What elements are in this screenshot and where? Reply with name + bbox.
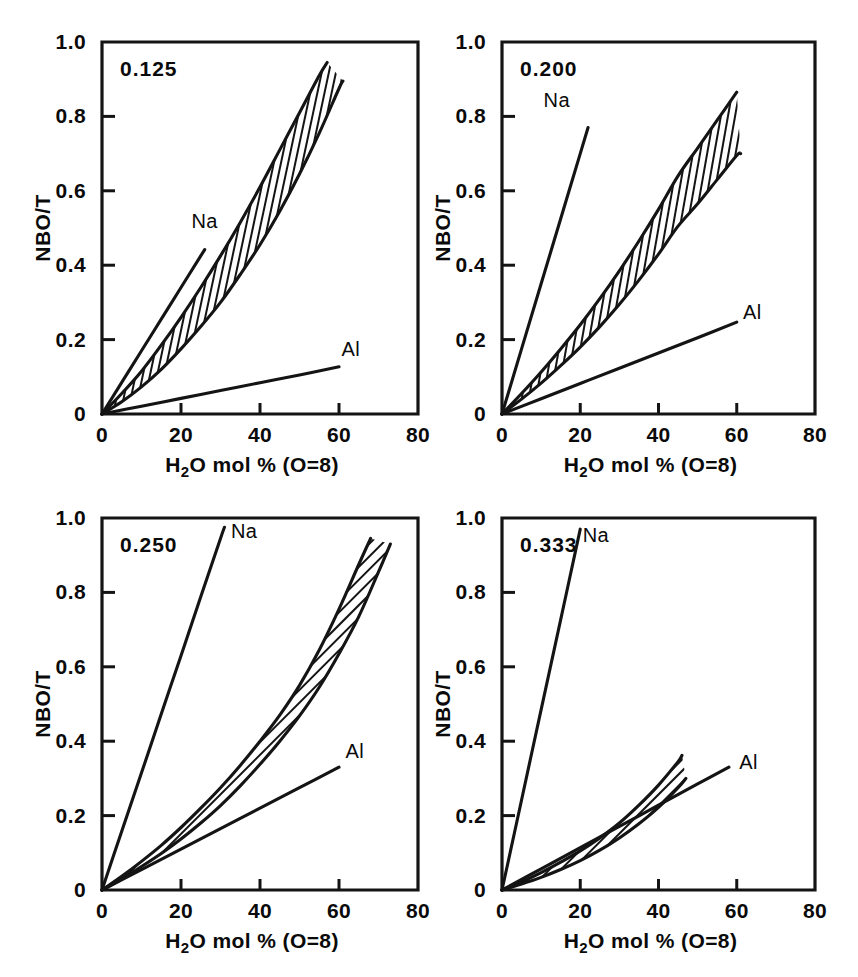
- x-axis-title-h: H: [564, 929, 580, 952]
- x-tick-label-80: 80: [803, 423, 827, 446]
- series-curve-na: [502, 529, 580, 890]
- x-axis-title-h: H: [165, 929, 181, 952]
- chart-panel-0.333: 02040608000.20.40.60.81.0H2O mol % (O=8)…: [430, 504, 831, 960]
- y-tick-label-0: 0: [474, 878, 486, 901]
- x-axis-title-rest: O mol % (O=8): [190, 453, 339, 476]
- series-curve-al: [502, 767, 729, 890]
- y-tick-label-0.6: 0.6: [456, 655, 486, 678]
- hatch-line: [0, 0, 10, 744]
- x-tick-label-80: 80: [406, 423, 430, 446]
- x-tick-label-20: 20: [568, 423, 592, 446]
- band-upper-curve: [102, 538, 371, 890]
- panel-tag-0.125: 0.125: [120, 57, 178, 80]
- x-tick-label-60: 60: [725, 423, 749, 446]
- y-tick-label-1.0: 1.0: [456, 506, 486, 529]
- axis-ticks: [102, 592, 339, 890]
- hatch-line: [0, 0, 24, 747]
- x-axis-title-text: H2O mol % (O=8): [564, 929, 738, 956]
- chart-panel-0.200: 02040608000.20.40.60.81.0H2O mol % (O=8)…: [430, 28, 831, 484]
- y-axis-title-text: NBO/T: [431, 194, 454, 261]
- hatch-line: [591, 637, 858, 977]
- band-fill: [502, 755, 686, 890]
- x-axis-title-rest: O mol % (O=8): [588, 929, 737, 952]
- x-axis-title-h: H: [564, 453, 580, 476]
- panel-tag-0.200: 0.200: [520, 57, 578, 80]
- hatch-line: [422, 467, 858, 977]
- x-tick-label-40: 40: [646, 899, 670, 922]
- x-tick-label-20: 20: [568, 899, 592, 922]
- hatch-line: [836, 0, 858, 876]
- y-tick-label-0.4: 0.4: [56, 729, 86, 752]
- y-tick-label-0.6: 0.6: [56, 655, 86, 678]
- x-tick-label-40: 40: [646, 423, 670, 446]
- x-tick-label-80: 80: [406, 899, 430, 922]
- y-tick-label-0.2: 0.2: [456, 804, 486, 827]
- x-tick-label-80: 80: [803, 899, 827, 922]
- y-tick-label-0.8: 0.8: [56, 104, 86, 127]
- x-axis-title-sub2: 2: [579, 463, 588, 480]
- x-axis-title-h: H: [165, 453, 181, 476]
- series-label-na: Na: [583, 524, 610, 546]
- x-axis-title: H2O mol % (O=8): [165, 929, 339, 956]
- y-tick-label-0.4: 0.4: [56, 253, 86, 276]
- x-axis-title-text: H2O mol % (O=8): [564, 453, 738, 480]
- hatch-line: [829, 0, 858, 875]
- x-tick-label-60: 60: [327, 423, 351, 446]
- band-fill: [502, 92, 741, 414]
- series-label-al: Al: [346, 740, 365, 762]
- chart-svg-0.125: 02040608000.20.40.60.81.0H2O mol % (O=8)…: [30, 28, 434, 484]
- x-tick-label-0: 0: [496, 899, 508, 922]
- x-axis-title-text: H2O mol % (O=8): [165, 453, 339, 480]
- y-axis-title-text: NBO/T: [31, 670, 54, 737]
- y-tick-label-0.8: 0.8: [456, 580, 486, 603]
- x-axis-title-sub2: 2: [579, 939, 588, 956]
- hatch-line: [0, 0, 17, 745]
- x-axis-title-rest: O mol % (O=8): [190, 929, 339, 952]
- chart-svg-0.250: 02040608000.20.40.60.81.0H2O mol % (O=8)…: [30, 504, 434, 960]
- series-label-na: Na: [544, 89, 571, 111]
- band-fill: [102, 62, 343, 414]
- series-label-al: Al: [743, 301, 762, 323]
- y-tick-label-0: 0: [474, 402, 486, 425]
- x-tick-label-60: 60: [327, 899, 351, 922]
- x-axis-title-rest: O mol % (O=8): [588, 453, 737, 476]
- hatch-line: [843, 0, 858, 877]
- y-tick-label-0: 0: [74, 402, 86, 425]
- axis-ticks: [502, 592, 737, 890]
- figure-four-panel-nbo-t: 02040608000.20.40.60.81.0H2O mol % (O=8)…: [0, 0, 858, 977]
- x-tick-label-0: 0: [496, 423, 508, 446]
- x-axis-title-sub2: 2: [181, 463, 190, 480]
- hatch-line: [484, 529, 858, 977]
- chart-panel-0.125: 02040608000.20.40.60.81.0H2O mol % (O=8)…: [30, 28, 434, 484]
- series-label-al: Al: [342, 338, 361, 360]
- panel-tag-0.250: 0.250: [120, 533, 178, 556]
- x-tick-label-0: 0: [96, 423, 108, 446]
- x-tick-label-40: 40: [248, 899, 272, 922]
- y-tick-label-0.6: 0.6: [456, 179, 486, 202]
- series-label-al: Al: [739, 751, 758, 773]
- x-axis-title: H2O mol % (O=8): [165, 453, 339, 480]
- y-tick-label-0.8: 0.8: [56, 580, 86, 603]
- y-tick-label-1.0: 1.0: [456, 30, 486, 53]
- hatch-line: [850, 0, 858, 878]
- chart-svg-0.333: 02040608000.20.40.60.81.0H2O mol % (O=8)…: [430, 504, 831, 960]
- y-tick-label-0.8: 0.8: [456, 104, 486, 127]
- y-axis-title-text: NBO/T: [31, 194, 54, 261]
- y-tick-label-1.0: 1.0: [56, 506, 86, 529]
- y-tick-label-0.2: 0.2: [56, 804, 86, 827]
- x-tick-label-20: 20: [169, 423, 193, 446]
- axis-tick-labels: 02040608000.20.40.60.81.0: [456, 506, 827, 922]
- series-label-na: Na: [231, 520, 258, 542]
- hatch-line: [0, 0, 31, 748]
- hatch-line: [0, 0, 3, 742]
- y-tick-label-1.0: 1.0: [56, 30, 86, 53]
- y-tick-label-0.4: 0.4: [456, 253, 486, 276]
- band-upper-curve: [502, 755, 682, 890]
- x-axis-title: H2O mol % (O=8): [564, 929, 738, 956]
- series-label-na: Na: [192, 210, 219, 232]
- y-tick-label-0: 0: [74, 878, 86, 901]
- y-axis-title-text: NBO/T: [431, 670, 454, 737]
- chart-svg-0.200: 02040608000.20.40.60.81.0H2O mol % (O=8)…: [430, 28, 831, 484]
- y-tick-label-0.4: 0.4: [456, 729, 486, 752]
- hatch-line: [405, 450, 858, 977]
